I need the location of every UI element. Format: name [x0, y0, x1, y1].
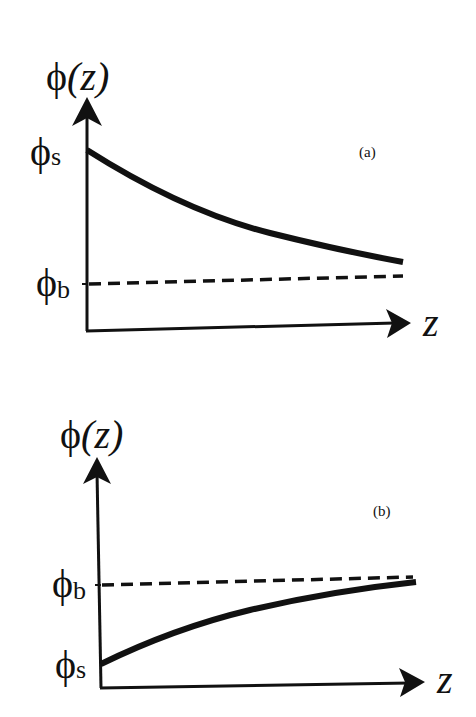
panel-b-phi-b-dashed-line: [102, 577, 413, 585]
panel-a-y-axis-label: ϕ(z): [46, 54, 109, 99]
panel-a-phi-b-dashed-line: [89, 276, 403, 284]
panel-a-decay-curve: [87, 150, 403, 262]
panel-a-phi-b-label: ϕb: [36, 260, 70, 305]
panel-b-panel-label: (b): [373, 503, 391, 520]
panel-a-phi-s-label: ϕs: [30, 129, 61, 174]
panel-a-panel-label: (a): [359, 144, 376, 161]
panel-b-x-axis: [100, 683, 410, 688]
panel-a-x-axis-label: z: [422, 300, 439, 345]
panel-b-y-axis: [97, 472, 101, 688]
panel-a: ϕ(z) ϕs ϕb (a) z: [30, 54, 439, 345]
panel-b-x-axis-label: z: [436, 657, 453, 702]
panel-b-y-axis-label: ϕ(z): [60, 412, 123, 457]
panel-b-rise-curve: [101, 582, 416, 664]
panel-b: ϕ(z) ϕb ϕs (b) z: [52, 412, 453, 702]
figure-canvas: ϕ(z) ϕs ϕb (a) z ϕ(z) ϕb ϕs (b) z: [0, 0, 476, 717]
panel-a-x-axis: [86, 323, 395, 331]
panel-b-phi-s-label: ϕs: [55, 642, 86, 687]
panel-b-phi-b-label: ϕb: [52, 561, 86, 606]
